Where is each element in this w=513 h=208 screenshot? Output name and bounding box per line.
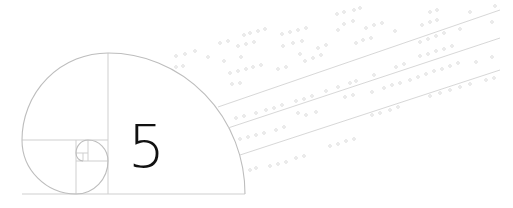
data-dots [175, 5, 497, 172]
golden-spiral-illustration [0, 0, 513, 208]
data-stream-lines [218, 10, 500, 155]
golden-grid [22, 53, 108, 194]
number-five-label: 5 [128, 118, 165, 176]
